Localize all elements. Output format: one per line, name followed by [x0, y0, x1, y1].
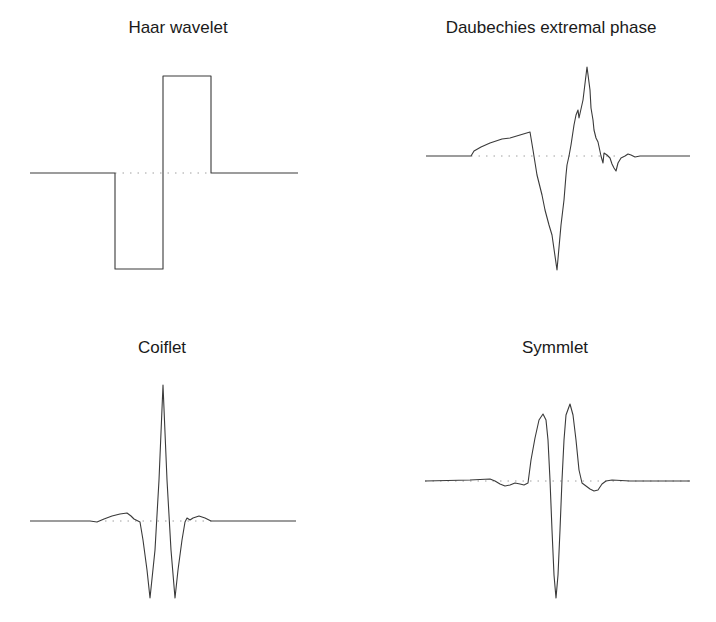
coiflet-plot [30, 385, 296, 598]
coiflet-curve [30, 385, 296, 598]
haar-plot [30, 76, 298, 269]
wavelet-plots [0, 0, 716, 622]
daubechies-plot [426, 67, 690, 270]
daubechies-curve [426, 67, 690, 270]
haar-curve [30, 76, 298, 269]
symmlet-curve [425, 404, 690, 598]
symmlet-plot [425, 404, 690, 598]
